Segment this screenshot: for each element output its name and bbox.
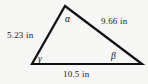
angle-label-alpha: α xyxy=(65,15,70,25)
side-label-bottom: 10.5 in xyxy=(63,70,89,79)
angle-label-beta: β xyxy=(111,52,116,62)
triangle-outline xyxy=(32,6,142,64)
angle-label-gamma: γ xyxy=(38,55,42,65)
side-label-right: 9.66 in xyxy=(101,17,127,26)
triangle-figure: 5.23 in 9.66 in 10.5 in α β γ xyxy=(0,0,148,84)
side-label-left: 5.23 in xyxy=(7,31,33,40)
